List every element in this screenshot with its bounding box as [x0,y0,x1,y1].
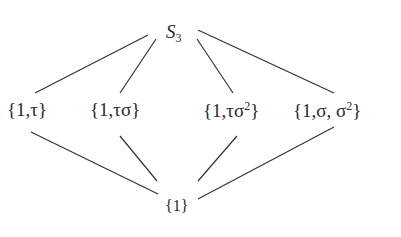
brace: } [250,100,259,121]
brace: } [352,100,361,121]
node-ts: {1,τσ} [90,100,140,119]
edge-ts-e [120,136,157,181]
node-label: {1,σ, σ [293,100,346,121]
edge-ts2-e [198,136,237,181]
node-s: {1,σ, σ2} [293,100,361,120]
subscript: 3 [176,31,182,45]
edge-S3-ts2 [197,39,233,93]
node-S3: S3 [166,22,182,44]
edge-S3-t [35,35,148,93]
node-label: {1} [165,197,188,214]
edge-t-e [31,132,158,194]
node-label: {1,τσ} [90,99,140,120]
node-e: {1} [165,198,188,214]
node-label: {1,τσ [203,100,244,121]
node-label: {1,τ} [7,99,47,120]
edge-s-e [198,127,334,199]
node-label: S [166,21,176,42]
node-ts2: {1,τσ2} [203,100,259,120]
lattice-diagram: S3 {1,τ} {1,τσ} {1,τσ2} {1,σ, σ2} {1} [0,0,401,237]
edge-S3-s [198,30,334,93]
node-t: {1,τ} [7,100,47,119]
